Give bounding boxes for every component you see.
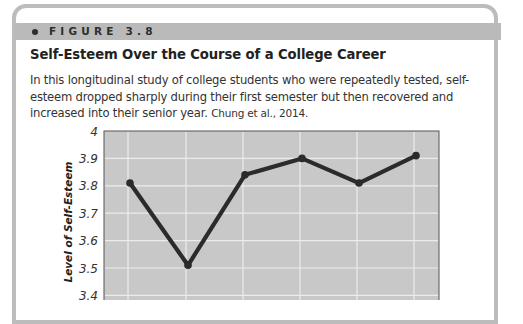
y-tick-label: 4	[90, 125, 98, 139]
data-point-marker	[355, 179, 363, 187]
data-point-marker	[298, 155, 306, 163]
y-axis-label: Level of Self-Esteem	[62, 161, 74, 282]
y-tick-label: 3.7	[79, 207, 98, 221]
y-tick-label: 3.6	[79, 234, 98, 248]
data-point-marker	[412, 152, 420, 160]
y-tick-label: 3.5	[79, 262, 98, 276]
data-point-marker	[126, 179, 134, 187]
data-point-marker	[184, 261, 192, 269]
y-tick-label: 3.4	[79, 289, 98, 300]
y-tick-label: 3.8	[79, 179, 98, 193]
y-axis-ticks: 43.93.83.73.63.53.4	[79, 125, 98, 301]
y-tick-label: 3.9	[79, 152, 98, 166]
data-point-marker	[241, 171, 249, 179]
